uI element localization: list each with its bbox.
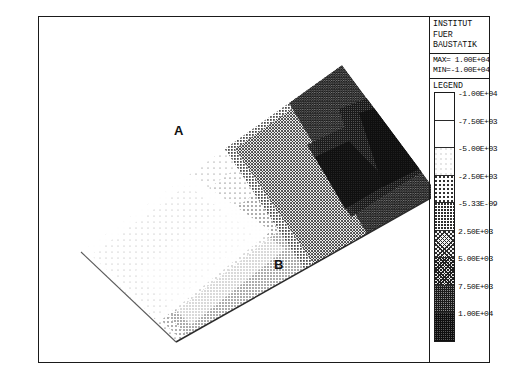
institute-title-block: INSTITUT FUER BAUSTATIK (430, 17, 489, 54)
legend-panel: INSTITUT FUER BAUSTATIK MAX= 1.00E+04 MI… (429, 17, 489, 362)
legend-swatch (435, 93, 454, 121)
legend-swatch (435, 148, 454, 176)
legend-swatch (435, 286, 454, 314)
legend-value: -2.50E+03 (458, 172, 497, 181)
max-min-block: MAX= 1.00E+04 MIN=-1.00E+04 (430, 54, 489, 79)
institute-line-2: FUER (433, 30, 487, 41)
legend-swatch (435, 203, 454, 231)
legend-value: 2.50E+03 (458, 227, 493, 236)
legend-swatch (435, 176, 454, 204)
legend-value: 1.00E+04 (458, 309, 493, 318)
legend-swatch (435, 231, 454, 259)
legend-swatch (435, 121, 454, 149)
legend-scale-block: LEGEND -1.00E+04 -7.50E+03 -5.00E+03 -2.… (430, 79, 489, 362)
institute-line-1: INSTITUT (433, 19, 487, 30)
contour-bands (39, 17, 431, 362)
legend-swatch-wrap: -1.00E+04 -7.50E+03 -5.00E+03 -2.50E+03 … (433, 92, 487, 342)
plot-annotation-a: A (174, 123, 184, 138)
contour-plot-svg (39, 17, 431, 362)
institute-line-3: BAUSTATIK (433, 40, 487, 51)
legend-swatch (435, 313, 454, 341)
plot-frame: A B INSTITUT FUER BAUSTATIK MAX= 1.00E+0… (38, 16, 490, 363)
legend-value: 7.50E+03 (458, 282, 493, 291)
plot-annotation-b: B (274, 257, 284, 272)
legend-value: 5.00E+03 (458, 254, 493, 263)
legend-value: -5.33E-09 (458, 199, 497, 208)
min-value-label: MIN=-1.00E+04 (433, 65, 487, 76)
legend-swatch-column (434, 92, 455, 342)
legend-value: -7.50E+03 (458, 117, 497, 126)
max-value-label: MAX= 1.00E+04 (433, 55, 487, 66)
legend-value: -1.00E+04 (458, 89, 497, 98)
legend-value: -5.00E+03 (458, 144, 497, 153)
contour-plot-area: A B (39, 17, 431, 362)
legend-swatch (435, 258, 454, 286)
